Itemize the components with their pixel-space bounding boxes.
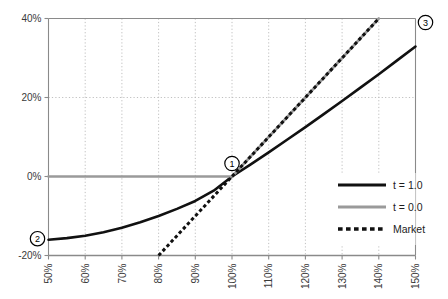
x-tick-label: 70% bbox=[117, 263, 128, 283]
x-tick-label: 90% bbox=[190, 263, 201, 283]
legend-label: t = 1.0 bbox=[393, 179, 423, 191]
x-tick-label: 110% bbox=[263, 263, 274, 288]
callout-label: 3 bbox=[423, 18, 428, 28]
chart-legend: t = 1.0t = 0.0Market bbox=[332, 173, 425, 245]
y-tick-label: 0% bbox=[27, 171, 42, 182]
x-tick-label: 80% bbox=[153, 263, 164, 283]
chart-container: -20%0%20%40%50%60%70%80%90%100%110%120%1… bbox=[0, 0, 448, 299]
x-tick-label: 100% bbox=[227, 263, 238, 289]
line-chart: -20%0%20%40%50%60%70%80%90%100%110%120%1… bbox=[0, 0, 448, 299]
callout-3: 3 bbox=[418, 15, 432, 29]
callout-label: 2 bbox=[35, 234, 40, 244]
legend-label: t = 0.0 bbox=[393, 201, 423, 213]
y-tick-label: 40% bbox=[21, 13, 41, 24]
callout-1: 1 bbox=[225, 156, 239, 170]
x-tick-label: 60% bbox=[80, 263, 91, 283]
callout-2: 2 bbox=[30, 232, 44, 246]
legend-label: Market bbox=[393, 223, 425, 235]
x-tick-label: 150% bbox=[410, 263, 421, 289]
y-axis: -20%0%20%40% bbox=[18, 13, 48, 261]
x-tick-label: 120% bbox=[300, 263, 311, 289]
x-tick-label: 50% bbox=[43, 263, 54, 283]
x-tick-label: 140% bbox=[373, 263, 384, 289]
y-tick-label: 20% bbox=[21, 92, 41, 103]
x-tick-label: 130% bbox=[337, 263, 348, 289]
y-tick-label: -20% bbox=[18, 250, 41, 261]
x-axis: 50%60%70%80%90%100%110%120%130%140%150% bbox=[43, 256, 421, 290]
callout-label: 1 bbox=[229, 159, 234, 169]
